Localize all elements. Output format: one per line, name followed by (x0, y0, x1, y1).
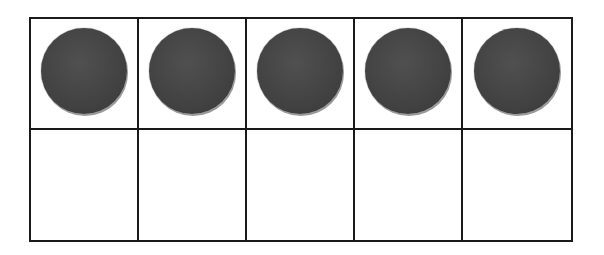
counter-dot (474, 28, 560, 114)
frame-cell-r1-c2 (139, 19, 247, 130)
frame-cell-r1-c5 (463, 19, 571, 130)
frame-cell-r1-c1 (31, 19, 139, 130)
counter-dot (257, 28, 343, 114)
frame-cell-r2-c3 (247, 130, 355, 241)
frame-cell-r1-c3 (247, 19, 355, 130)
frame-cell-r2-c4 (355, 130, 463, 241)
counter-dot (41, 28, 127, 114)
counter-dot (149, 28, 235, 114)
counter-dot (365, 28, 451, 114)
frame-cell-r2-c2 (139, 130, 247, 241)
frame-cell-r1-c4 (355, 19, 463, 130)
ten-frame (29, 17, 573, 242)
frame-cell-r2-c1 (31, 130, 139, 241)
frame-cell-r2-c5 (463, 130, 571, 241)
